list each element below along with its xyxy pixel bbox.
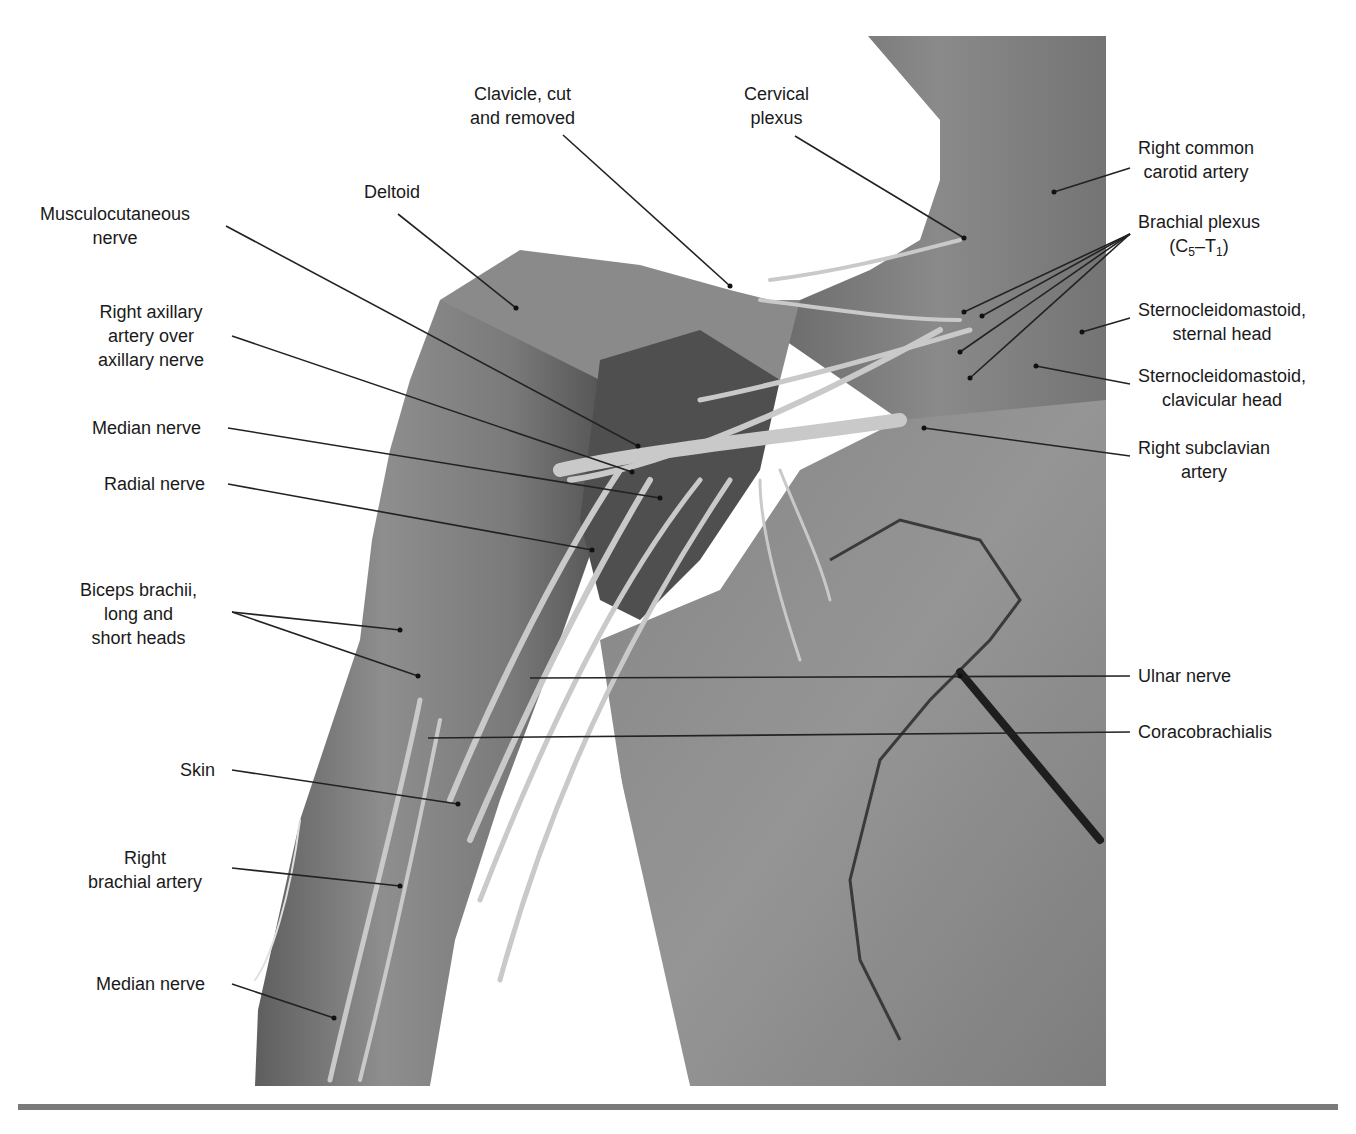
label-line: Median nerve [92,416,201,440]
label-line: Right common [1138,136,1254,160]
label-line: long and [80,602,197,626]
label-scm-clavicular-head: Sternocleidomastoid, clavicular head [1138,364,1306,412]
label-line: Biceps brachii, [80,578,197,602]
label-line: Ulnar nerve [1138,664,1231,688]
label-brachial-plexus: Brachial plexus (C5–T1) [1138,210,1260,258]
label-line: Right subclavian [1138,436,1270,460]
label-line: clavicular head [1138,388,1306,412]
label-line: Cervical [744,82,809,106]
label-musculocutaneous-nerve: Musculocutaneous nerve [40,202,190,250]
label-line: sternal head [1138,322,1306,346]
bottom-rule [18,1104,1338,1110]
label-scm-sternal-head: Sternocleidomastoid, sternal head [1138,298,1306,346]
label-line: axillary nerve [98,348,204,372]
label-line: Deltoid [364,180,420,204]
label-line: brachial artery [88,870,202,894]
label-line-spinal-levels: (C5–T1) [1138,234,1260,258]
label-cervical-plexus: Cervical plexus [744,82,809,130]
label-median-nerve-lower: Median nerve [96,972,205,996]
label-line: Radial nerve [104,472,205,496]
label-skin: Skin [180,758,215,782]
label-ulnar-nerve: Ulnar nerve [1138,664,1231,688]
label-line: Median nerve [96,972,205,996]
label-line: Right [88,846,202,870]
label-line: plexus [744,106,809,130]
label-line: Sternocleidomastoid, [1138,364,1306,388]
label-coracobrachialis: Coracobrachialis [1138,720,1272,744]
label-line: Brachial plexus [1138,210,1260,234]
label-line: Skin [180,758,215,782]
label-line: Clavicle, cut [470,82,575,106]
label-median-nerve-upper: Median nerve [92,416,201,440]
label-line: Coracobrachialis [1138,720,1272,744]
label-radial-nerve: Radial nerve [104,472,205,496]
label-clavicle: Clavicle, cut and removed [470,82,575,130]
label-line: and removed [470,106,575,130]
neck-region [770,36,1106,420]
label-right-common-carotid: Right common carotid artery [1138,136,1254,184]
label-line: nerve [40,226,190,250]
label-right-subclavian-artery: Right subclavian artery [1138,436,1270,484]
label-biceps-brachii: Biceps brachii, long and short heads [80,578,197,650]
label-deltoid: Deltoid [364,180,420,204]
label-line: short heads [80,626,197,650]
label-right-brachial-artery: Right brachial artery [88,846,202,894]
label-line: Musculocutaneous [40,202,190,226]
label-line: artery over [98,324,204,348]
label-line: carotid artery [1138,160,1254,184]
label-line: Right axillary [98,300,204,324]
label-right-axillary-artery: Right axillary artery over axillary nerv… [98,300,204,372]
label-line: artery [1138,460,1270,484]
label-line: Sternocleidomastoid, [1138,298,1306,322]
